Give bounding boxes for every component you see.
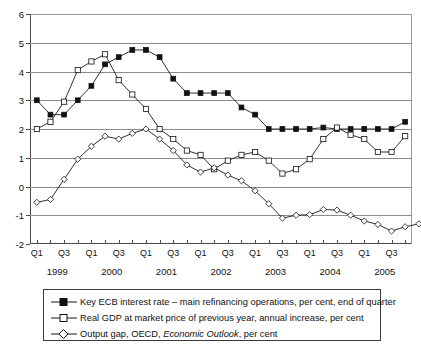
y-tick-mark <box>26 244 30 245</box>
data-point-open-diamond <box>293 212 299 218</box>
y-tick-label: 3 <box>0 95 24 106</box>
data-point-filled-square <box>225 91 230 96</box>
data-point-filled-square <box>89 83 94 88</box>
series-line <box>37 129 419 231</box>
data-point-open-diamond <box>143 126 149 132</box>
data-point-open-square <box>34 126 39 131</box>
data-point-open-diamond <box>238 178 244 184</box>
series-output-gap <box>34 126 421 234</box>
data-point-open-square <box>403 134 408 139</box>
data-point-filled-square <box>348 127 353 132</box>
data-point-open-diamond <box>361 218 367 224</box>
data-point-open-square <box>253 149 258 154</box>
data-point-filled-square <box>34 98 39 103</box>
x-axis-year-label: 2001 <box>156 266 177 277</box>
x-tick-label: Q1 <box>249 248 261 258</box>
data-series-layer <box>30 14 412 244</box>
data-point-open-square <box>348 132 353 137</box>
legend-marker-open-diamond <box>50 327 78 341</box>
data-point-open-diamond <box>416 221 421 227</box>
chart-figure: Q1Q3Q1Q3Q1Q3Q1Q3Q1Q3Q1Q3Q1Q3 6543210-1-2… <box>0 0 421 350</box>
data-point-open-square <box>334 125 339 130</box>
data-point-open-square <box>389 149 394 154</box>
data-point-open-diamond <box>334 207 340 213</box>
data-point-filled-square <box>48 112 53 117</box>
x-tick-label: Q3 <box>331 248 343 258</box>
data-point-open-diamond <box>402 224 408 230</box>
data-point-open-square <box>293 167 298 172</box>
y-tick-label: -1 <box>0 210 24 221</box>
data-point-open-diamond <box>102 133 108 139</box>
data-point-filled-square <box>75 98 80 103</box>
data-point-filled-square <box>198 91 203 96</box>
y-tick-label: 1 <box>0 152 24 163</box>
x-tick-label: Q3 <box>386 248 398 258</box>
data-point-open-square <box>362 136 367 141</box>
data-point-filled-square <box>375 127 380 132</box>
x-tick-label: Q1 <box>31 248 43 258</box>
data-point-filled-square <box>280 127 285 132</box>
data-point-filled-square <box>307 127 312 132</box>
x-axis-year-label: 2003 <box>265 266 286 277</box>
y-tick-label: 0 <box>0 181 24 192</box>
data-point-open-square <box>307 157 312 162</box>
legend-item-ecb-rate: Key ECB interest rate – main refinancing… <box>50 294 374 310</box>
data-point-filled-square <box>184 91 189 96</box>
data-point-open-diamond <box>129 130 135 136</box>
data-point-filled-square <box>239 105 244 110</box>
data-point-open-square <box>157 126 162 131</box>
x-tick-label: Q3 <box>276 248 288 258</box>
x-tick-label: Q1 <box>85 248 97 258</box>
x-tick-label: Q1 <box>358 248 370 258</box>
series-real-gdp <box>34 52 408 177</box>
data-point-filled-square <box>212 91 217 96</box>
data-point-open-square <box>48 119 53 124</box>
x-axis-year-label: 2002 <box>210 266 231 277</box>
data-point-open-diamond <box>47 196 53 202</box>
data-point-open-diamond <box>388 228 394 234</box>
data-point-open-diamond <box>116 136 122 142</box>
x-tick-label: Q1 <box>140 248 152 258</box>
data-point-filled-square <box>389 127 394 132</box>
data-point-open-diamond <box>375 221 381 227</box>
data-point-filled-square <box>171 76 176 81</box>
data-point-open-square <box>143 106 148 111</box>
data-point-filled-square <box>130 48 135 53</box>
y-tick-label: 6 <box>0 9 24 20</box>
data-point-open-diamond <box>34 199 40 205</box>
data-point-open-diamond <box>61 176 67 182</box>
data-point-open-diamond <box>307 212 313 218</box>
data-point-filled-square <box>157 55 162 60</box>
data-point-open-square <box>280 171 285 176</box>
data-point-open-square <box>266 158 271 163</box>
data-point-filled-square <box>362 127 367 132</box>
y-tick-label: 2 <box>0 124 24 135</box>
plot-area <box>30 14 412 244</box>
data-point-open-square <box>102 52 107 57</box>
data-point-open-square <box>171 136 176 141</box>
data-point-filled-square <box>403 119 408 124</box>
x-tick-label: Q3 <box>58 248 70 258</box>
x-axis-year-label: 2004 <box>320 266 341 277</box>
legend-item-output-gap: Output gap, OECD, Economic Outlook, per … <box>50 326 374 342</box>
data-point-filled-square <box>103 62 108 67</box>
x-axis-year-label: 2000 <box>101 266 122 277</box>
data-point-filled-square <box>266 127 271 132</box>
data-point-filled-square <box>144 48 149 53</box>
data-point-open-diamond <box>225 172 231 178</box>
x-axis-year-label: 2005 <box>374 266 395 277</box>
x-tick-label: Q1 <box>304 248 316 258</box>
x-tick-label: Q3 <box>113 248 125 258</box>
data-point-filled-square <box>116 55 121 60</box>
series-line <box>37 54 405 173</box>
data-point-open-square <box>89 59 94 64</box>
x-tick-label: Q3 <box>167 248 179 258</box>
legend: Key ECB interest rate – main refinancing… <box>43 289 381 341</box>
legend-marker-filled-square <box>50 295 78 309</box>
legend-item-real-gdp: Real GDP at market price of previous yea… <box>50 310 374 326</box>
data-point-filled-square <box>253 112 258 117</box>
data-point-filled-square <box>62 112 67 117</box>
legend-label-output-gap: Output gap, OECD, Economic Outlook, per … <box>80 327 277 341</box>
data-point-open-diamond <box>197 169 203 175</box>
legend-label-ecb-rate: Key ECB interest rate – main refinancing… <box>80 295 396 309</box>
